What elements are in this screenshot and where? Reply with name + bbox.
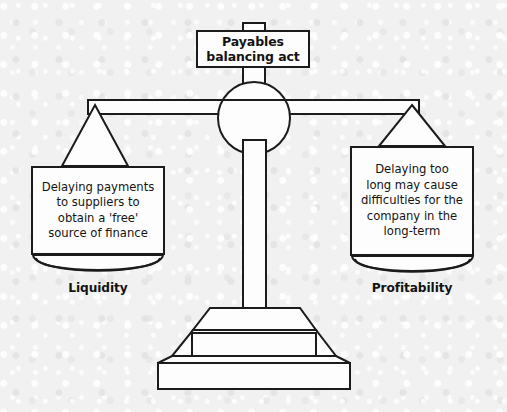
- left-pan-text-box: Delaying payments to suppliers to obtain…: [31, 166, 165, 255]
- right-pan-text: Delaying too long may cause difficulties…: [361, 162, 463, 239]
- pan-dish-right: [352, 256, 473, 272]
- base-bottom-slab: [158, 363, 350, 389]
- vertical-column: [243, 140, 266, 308]
- right-line-5: long-term: [384, 224, 441, 238]
- right-line-2: long may cause: [366, 178, 458, 192]
- right-line-4: company in the: [367, 209, 457, 223]
- base-inner-band: [192, 333, 316, 356]
- left-line-2: to suppliers to: [56, 195, 139, 209]
- left-pan-label: Liquidity: [31, 281, 165, 295]
- left-line-3: obtain a 'free': [58, 211, 138, 225]
- right-line-1: Delaying too: [375, 162, 449, 176]
- right-pan-text-box: Delaying too long may cause difficulties…: [350, 146, 474, 256]
- right-pan-label: Profitability: [350, 281, 474, 295]
- left-pan-text: Delaying payments to suppliers to obtain…: [42, 180, 155, 242]
- title-box-text: Payables balancing act: [206, 34, 299, 65]
- pan-dish-left: [33, 255, 163, 271]
- title-line-2: balancing act: [206, 49, 299, 64]
- right-line-3: difficulties for the: [361, 193, 463, 207]
- title-line-1: Payables: [222, 34, 284, 49]
- left-line-1: Delaying payments: [42, 180, 155, 194]
- base-bottom-bevel: [158, 356, 350, 363]
- left-line-4: source of finance: [48, 226, 148, 240]
- title-box: Payables balancing act: [196, 30, 310, 68]
- base-step-top: [193, 308, 316, 330]
- diagram-canvas: Payables balancing act Delaying payments…: [0, 0, 507, 412]
